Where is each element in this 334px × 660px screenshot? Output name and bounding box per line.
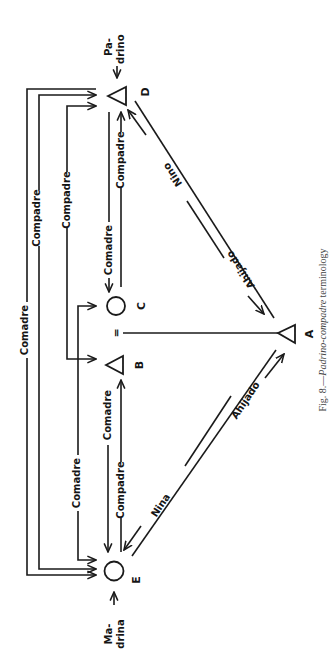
edge-d-a: Nino Ahijado	[128, 101, 274, 318]
triangle-a-icon	[278, 325, 295, 343]
role-padrino-2: drino	[115, 34, 126, 64]
triangle-d-icon	[108, 87, 126, 105]
label-ahijado-d: Ahijado	[224, 249, 256, 291]
node-a: A	[278, 325, 316, 343]
node-e-label: E	[130, 576, 143, 584]
caption-prefix: Fig. 8.—	[317, 375, 328, 412]
figure-caption: Fig. 8.—Padrino-compadre terminology	[317, 249, 328, 412]
circle-e-icon	[105, 562, 124, 581]
role-madrina-2: drina	[115, 619, 126, 648]
marriage-symbol: =	[110, 328, 123, 337]
label-compadre-outer: Compadre	[31, 189, 42, 247]
label-nino: Nino	[161, 161, 184, 189]
edge-d-c-compadre: Compadre	[113, 112, 127, 287]
node-d: D Pa- drino	[103, 34, 152, 105]
role-madrina-1: Ma-	[103, 624, 114, 645]
edge-c-d-comadre: Comadre	[101, 112, 115, 292]
label-comadre-c-d: Comadre	[103, 225, 114, 275]
node-c: C	[107, 297, 148, 315]
node-e: E Ma- drina	[103, 562, 143, 649]
node-b-label: B	[133, 361, 146, 369]
node-c-label: C	[135, 302, 148, 310]
label-comadre-c-e: Comadre	[71, 458, 82, 508]
label-ahijado-e: Ahijado	[229, 379, 262, 420]
edge-d-e-compadre: Compadre	[29, 95, 96, 569]
edge-b-e-comadre: Comadre	[100, 385, 114, 552]
caption-italic: Padrino-compadre	[317, 299, 328, 376]
triangle-b-icon	[106, 356, 123, 374]
node-a-label: A	[303, 329, 316, 338]
edge-e-b-compadre: Compadre	[113, 380, 127, 552]
caption-suffix: terminology	[317, 249, 328, 300]
node-b: B	[106, 356, 146, 374]
label-nina: Nina	[149, 492, 172, 519]
circle-c-icon	[107, 297, 125, 315]
edge-d-e-comadre: Comadre	[17, 89, 96, 575]
label-comadre-outer: Comadre	[19, 305, 30, 355]
label-compadre-d-b: Compadre	[61, 171, 72, 229]
marriage-b-c: =	[110, 328, 278, 337]
label-compadre-d-c: Compadre	[115, 131, 126, 189]
role-padrino-1: Pa-	[103, 38, 114, 56]
label-compadre-e-b: Compadre	[115, 461, 126, 519]
node-d-label: D	[139, 87, 152, 96]
svg-text:Fig. 8.—Padrino-compadre termi: Fig. 8.—Padrino-compadre terminology	[317, 249, 328, 412]
edge-c-e-comadre: Comadre	[69, 306, 96, 560]
label-comadre-b-e: Comadre	[102, 390, 113, 440]
edge-e-a: Nina Ahijado	[124, 350, 284, 556]
padrino-compadre-diagram: Comadre Compadre Compadre Comadre Comadr…	[0, 0, 334, 660]
